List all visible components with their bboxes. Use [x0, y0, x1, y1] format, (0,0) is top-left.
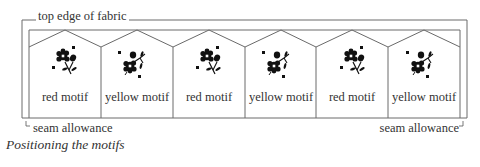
top-edge-label: top edge of fabric — [36, 10, 129, 23]
flower-motif-6 — [406, 51, 433, 78]
seam-allowance-left-label: seam allowance — [33, 122, 112, 135]
motif-label-5: red motif — [316, 91, 388, 104]
flower-motif-1 — [52, 46, 77, 74]
figure-caption: Positioning the motifs — [6, 138, 125, 152]
flower-motif-5 — [340, 46, 365, 74]
flower-motif-4 — [262, 51, 289, 78]
motif-label-6: yellow motif — [388, 91, 460, 104]
flower-motif-2 — [118, 51, 145, 78]
motif-label-4: yellow motif — [245, 91, 317, 104]
motif-label-2: yellow motif — [101, 91, 173, 104]
motif-label-1: red motif — [29, 91, 101, 104]
motif-label-3: red motif — [173, 91, 245, 104]
flower-motif-3 — [196, 46, 221, 74]
pentagon-roofs — [29, 30, 460, 47]
seam-allowance-right-label: seam allowance — [380, 122, 459, 135]
